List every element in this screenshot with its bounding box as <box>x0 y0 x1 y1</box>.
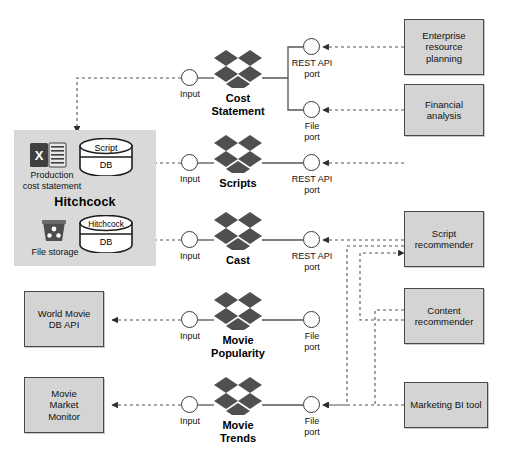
dataset-movie-popularity-label: Movie Popularity <box>194 334 282 360</box>
script-db-bottom-label: DB <box>78 160 134 170</box>
consumer-content-recommender-label: Content recommender <box>415 305 474 328</box>
dataset-movie-popularity-icon[interactable] <box>214 290 262 330</box>
consumer-marketing-bi-tool[interactable]: Marketing BI tool <box>404 382 488 428</box>
consumer-financial-analysis-label: Financial analysis <box>425 99 463 122</box>
dataset-movie-trends-label: Movie Trends <box>198 419 278 445</box>
source-movie-market-monitor-label: Movie Market Monitor <box>48 388 80 423</box>
source-world-movie-db-api[interactable]: World Movie DB API <box>24 291 104 347</box>
consumer-enterprise-resource-planning-label: Enterprise resource planning <box>422 30 465 65</box>
script-db-top-label: Script <box>78 143 134 153</box>
consumer-enterprise-resource-planning[interactable]: Enterprise resource planning <box>404 19 484 75</box>
port-cost-statement-rest-api-label: REST API port <box>284 58 340 79</box>
hitchcock-db-top-label: Hitchcock <box>78 220 134 229</box>
dataset-scripts-icon[interactable] <box>214 133 262 173</box>
port-cost-statement-file-label: File port <box>288 121 336 142</box>
excel-file-icon: X <box>28 142 72 168</box>
consumer-script-recommender-label: Script recommender <box>415 228 474 251</box>
dataset-movie-trends-icon[interactable] <box>214 375 262 415</box>
dataset-cast-label: Cast <box>198 254 278 267</box>
port-scripts-rest-api[interactable] <box>303 154 320 171</box>
port-movie-trends-file[interactable] <box>303 396 320 413</box>
dataset-scripts-label: Scripts <box>198 177 278 190</box>
wire-content-recommender-riser <box>375 310 404 405</box>
port-movie-popularity-file[interactable] <box>303 311 320 328</box>
port-input-scripts[interactable] <box>181 154 198 171</box>
svg-text:X: X <box>35 148 44 163</box>
port-cast-rest-api-label: REST API port <box>284 251 340 272</box>
port-input-cast[interactable] <box>181 231 198 248</box>
dataset-cost-statement-label: Cost Statement <box>198 92 278 118</box>
port-input-movie-trends[interactable] <box>181 396 198 413</box>
source-movie-market-monitor[interactable]: Movie Market Monitor <box>24 377 104 433</box>
consumer-marketing-bi-tool-label: Marketing BI tool <box>410 399 481 411</box>
port-input-movie-popularity[interactable] <box>181 311 198 328</box>
consumer-script-recommender[interactable]: Script recommender <box>404 211 484 267</box>
hitchcock-db-bottom-label: DB <box>78 237 134 247</box>
port-movie-popularity-file-label: File port <box>288 331 336 352</box>
wire-content-recommender-to-movie-popularity-file-port <box>360 253 404 320</box>
platform-title: Hitchcock <box>14 195 156 209</box>
diagram-canvas: Hitchcock X Production cost statement Fi… <box>0 0 512 476</box>
dataset-cost-statement-icon[interactable] <box>214 48 262 88</box>
port-movie-trends-file-label: File port <box>288 416 336 437</box>
port-cost-statement-file[interactable] <box>303 101 320 118</box>
consumer-content-recommender[interactable]: Content recommender <box>404 288 484 344</box>
port-cost-statement-rest-api[interactable] <box>303 38 320 55</box>
consumer-financial-analysis[interactable]: Financial analysis <box>404 84 484 136</box>
file-storage-icon <box>40 219 68 245</box>
port-scripts-rest-api-label: REST API port <box>284 174 340 195</box>
wire-cost-statement-to-production-file <box>77 78 181 132</box>
source-world-movie-db-api-label: World Movie DB API <box>38 308 91 331</box>
port-cast-rest-api[interactable] <box>303 231 320 248</box>
dataset-cast-icon[interactable] <box>214 210 262 250</box>
port-input-cost-statement[interactable] <box>181 69 198 86</box>
